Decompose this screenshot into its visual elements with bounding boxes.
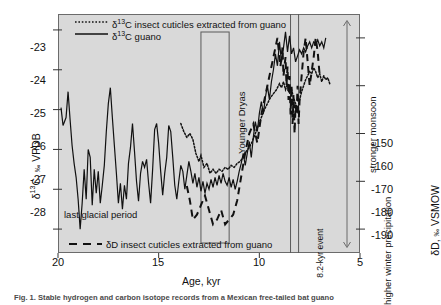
legend-label-dd-cuticles: δD insect cuticles extracted from guano (106, 240, 272, 250)
figure-caption: Fig. 1. Stable hydrogen and carbon isoto… (14, 293, 413, 302)
annotation-higher-winter-precipitation: higher winter precipitation (383, 197, 393, 305)
legend-symbol-dd: δD (106, 239, 118, 250)
legend-label-d13c-cuticles: δ13C insect cuticles extracted from guan… (112, 18, 286, 30)
y-left-axis-symbol: δ13C, ‰ VPDB (29, 133, 41, 199)
younger-dryas-box (201, 32, 229, 243)
legend-symbol-d13c-cuticles: δ13C (112, 19, 132, 30)
annotation-younger-dryas: Younger Dryas (237, 92, 247, 155)
legend-text-dd-cuticles: insect cuticles extracted from guano (121, 239, 273, 250)
series-d13c-insect-cuticles (181, 68, 330, 174)
x-tick-label-15: 15 (152, 257, 164, 268)
y-right-axis-symbol: δD, ‰ VSMOW (429, 185, 441, 256)
annotation-8-2-kyr-event: 8.2-kyr event (316, 229, 325, 278)
annotation-stronger-monsoon: stronger monsoon (368, 96, 378, 173)
x-tick-label-5: 5 (357, 257, 363, 268)
y-left-tick-label--23: -23 (30, 42, 46, 53)
series-d13c-guano (61, 32, 326, 229)
data-series-group (61, 32, 330, 229)
x-tick-label-10: 10 (253, 257, 265, 268)
y-left-axis-title: δ13C, ‰ VPDB (29, 133, 41, 199)
monsoon-precipitation-arrow-icon (344, 21, 351, 248)
legend-label-d13c-guano: δ13C guano (112, 30, 161, 42)
legend-text-d13c-cuticles: insect cuticles extracted from guano (135, 19, 287, 30)
y-left-tick-label--28: -28 (30, 207, 46, 218)
axis-tick-marks (53, 30, 365, 258)
y-left-tick-label--25: -25 (30, 108, 46, 119)
legend-symbol-d13c-guano: δ13C (112, 31, 132, 42)
x-axis-title: Age, kyr (182, 276, 221, 287)
series-dd-insect-cuticles (187, 38, 320, 224)
legend-text-d13c-guano: guano (135, 31, 161, 42)
y-right-tick-label--170: -170 (371, 184, 393, 195)
annotation-last-glacial-period: last glacial period (64, 210, 137, 220)
y-right-axis-title: δD, ‰ VSMOW (430, 185, 441, 256)
y-left-tick-label--24: -24 (30, 75, 46, 86)
x-tick-label-20: 20 (52, 257, 64, 268)
